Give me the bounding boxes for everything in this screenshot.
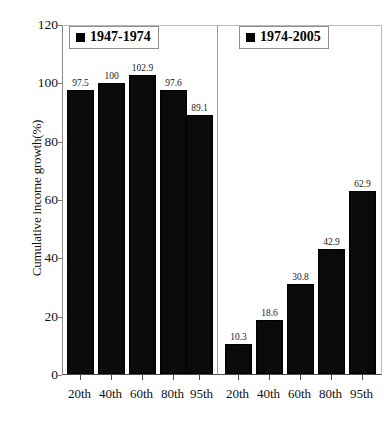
x-tick-label-left-60th: 60th xyxy=(130,386,153,402)
y-axis-ticks: 120 100 80 60 40 20 0 xyxy=(22,0,58,423)
bar-value-left-40th: 100 xyxy=(104,71,118,81)
bar-left-80th xyxy=(160,90,187,374)
bar-value-left-60th: 102.9 xyxy=(132,63,153,73)
bar-chart: Cumulative income growth(%) 120 100 80 6… xyxy=(0,0,388,423)
bar-right-40th xyxy=(256,320,283,374)
legend-label-left: 1947-1974 xyxy=(90,29,151,45)
x-tick-mark-5 xyxy=(238,375,239,380)
bar-left-60th xyxy=(129,75,156,374)
x-tick-mark-7 xyxy=(300,375,301,380)
legend-label-right: 1974-2005 xyxy=(260,29,321,45)
bar-value-left-20th: 97.5 xyxy=(72,78,89,88)
bar-value-left-80th: 97.6 xyxy=(165,78,182,88)
x-tick-label-right-95th: 95th xyxy=(350,386,373,402)
legend-swatch-icon xyxy=(246,33,255,42)
y-tick-label-120: 120 xyxy=(24,17,58,33)
x-tick-label-left-80th: 80th xyxy=(161,386,184,402)
bar-right-60th xyxy=(287,284,314,374)
bar-left-40th xyxy=(98,83,125,374)
y-tick-label-20: 20 xyxy=(24,309,58,325)
bar-value-right-80th: 42.9 xyxy=(323,237,340,247)
x-tick-mark-3 xyxy=(173,375,174,380)
x-tick-label-left-95th: 95th xyxy=(190,386,213,402)
x-tick-mark-6 xyxy=(269,375,270,380)
bar-left-20th xyxy=(67,90,94,374)
x-tick-label-left-20th: 20th xyxy=(68,386,91,402)
bar-value-right-20th: 10.3 xyxy=(230,332,247,342)
x-tick-mark-4 xyxy=(199,375,200,380)
x-tick-mark-1 xyxy=(111,375,112,380)
x-tick-mark-2 xyxy=(142,375,143,380)
y-tick-label-40: 40 xyxy=(24,250,58,266)
x-tick-label-left-40th: 40th xyxy=(99,386,122,402)
y-tick-label-80: 80 xyxy=(24,134,58,150)
y-tick-label-100: 100 xyxy=(24,75,58,91)
legend-1974-2005: 1974-2005 xyxy=(239,26,329,49)
x-tick-mark-9 xyxy=(362,375,363,380)
bar-value-right-95th: 62.9 xyxy=(354,179,371,189)
bar-value-left-95th: 89.1 xyxy=(191,103,208,113)
y-tick-mark-0 xyxy=(56,375,62,376)
x-tick-label-right-20th: 20th xyxy=(226,386,249,402)
x-tick-mark-8 xyxy=(331,375,332,380)
bar-value-right-40th: 18.6 xyxy=(261,308,278,318)
bar-right-20th xyxy=(225,344,252,374)
bar-right-95th xyxy=(349,191,376,374)
y-tick-label-60: 60 xyxy=(24,192,58,208)
legend-swatch-icon xyxy=(76,33,85,42)
bar-left-95th xyxy=(186,115,213,374)
panel-divider xyxy=(217,26,218,375)
plot-area: 97.5 100 102.9 97.6 89.1 10.3 18.6 30.8 … xyxy=(62,25,382,375)
x-tick-label-right-60th: 60th xyxy=(288,386,311,402)
bar-right-80th xyxy=(318,249,345,374)
bar-value-right-60th: 30.8 xyxy=(292,272,309,282)
x-tick-mark-0 xyxy=(80,375,81,380)
y-tick-label-0: 0 xyxy=(24,367,58,383)
x-tick-label-right-80th: 80th xyxy=(319,386,342,402)
x-tick-label-right-40th: 40th xyxy=(257,386,280,402)
legend-1947-1974: 1947-1974 xyxy=(69,26,159,49)
